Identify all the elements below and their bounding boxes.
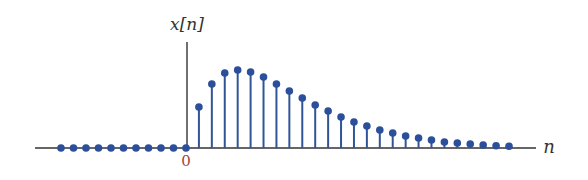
stem-marker <box>376 126 384 134</box>
stem-marker <box>454 139 462 147</box>
stem-marker <box>107 144 115 152</box>
stem-marker <box>120 144 128 152</box>
stem-marker <box>363 122 371 130</box>
stem-marker <box>324 107 332 115</box>
stem-marker <box>337 113 345 121</box>
stem-marker <box>402 132 410 140</box>
stem-marker <box>95 144 103 152</box>
stem-marker <box>479 141 487 149</box>
stem-marker <box>492 142 500 150</box>
stem-marker <box>182 144 190 152</box>
stem-marker <box>286 87 294 95</box>
stem-marker <box>350 118 358 126</box>
stem-marker <box>70 144 78 152</box>
stem-series <box>57 66 513 152</box>
stem-marker <box>195 103 203 111</box>
stem-marker <box>311 101 319 109</box>
stem-plot: x[n] n 0 <box>0 0 588 180</box>
stem-marker <box>208 80 216 88</box>
stem-marker <box>260 73 268 81</box>
x-axis-label: n <box>543 136 555 157</box>
stem-marker <box>170 144 178 152</box>
stem-marker <box>273 80 281 88</box>
stem-marker <box>82 144 90 152</box>
origin-tick-label: 0 <box>181 152 191 170</box>
stem-marker <box>57 144 65 152</box>
stem-marker <box>157 144 165 152</box>
stem-marker <box>466 140 474 148</box>
stem-marker <box>247 68 255 76</box>
stem-marker <box>441 138 449 146</box>
stem-marker <box>132 144 140 152</box>
stem-marker <box>234 66 242 74</box>
stem-marker <box>389 129 397 137</box>
stem-marker <box>298 94 306 102</box>
stem-marker <box>505 143 513 151</box>
stem-marker <box>428 136 436 144</box>
y-axis-label: x[n] <box>170 14 204 34</box>
stem-marker <box>145 144 153 152</box>
stem-marker <box>221 69 229 77</box>
stem-marker <box>415 134 423 142</box>
